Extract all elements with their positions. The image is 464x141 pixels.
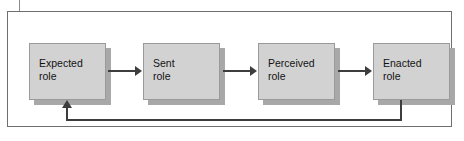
feedback-loop-descender bbox=[400, 100, 402, 121]
arrow-sent-to-perceived-head bbox=[250, 66, 257, 76]
node-perceived-role: Perceived role bbox=[258, 43, 335, 100]
arrow-sent-to-perceived-shaft bbox=[223, 70, 250, 72]
figure-canvas: Expected role Sent role Perceived role E… bbox=[0, 0, 464, 141]
arrow-expected-to-sent-shaft bbox=[108, 70, 135, 72]
arrow-perceived-to-enacted-head bbox=[365, 66, 372, 76]
node-sent-role: Sent role bbox=[143, 43, 220, 100]
node-sent-role-label: Sent role bbox=[153, 57, 215, 83]
arrow-expected-to-sent-head bbox=[135, 66, 142, 76]
node-enacted-role: Enacted role bbox=[373, 43, 450, 100]
feedback-loop-return bbox=[66, 119, 402, 121]
node-perceived-role-label: Perceived role bbox=[268, 57, 330, 83]
node-expected-role-label: Expected role bbox=[39, 57, 101, 83]
figure-frame: Expected role Sent role Perceived role E… bbox=[7, 11, 452, 127]
feedback-loop-riser bbox=[66, 108, 68, 121]
node-enacted-role-label: Enacted role bbox=[383, 57, 445, 83]
feedback-loop-arrow-head bbox=[62, 100, 72, 108]
arrow-perceived-to-enacted-shaft bbox=[338, 70, 365, 72]
node-expected-role: Expected role bbox=[29, 43, 106, 100]
